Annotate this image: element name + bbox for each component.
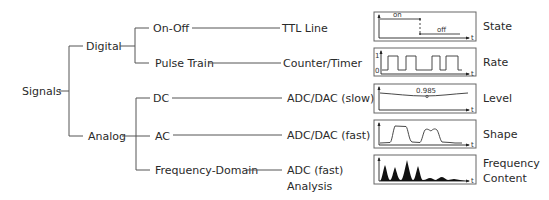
branch-label-digital: Digital [86,40,122,53]
branch-label-analog: Analog [88,130,126,143]
plot-state-axis-t: t [471,34,474,42]
plot-shape: t [374,120,476,149]
plot-state: on off t [374,11,476,42]
hardware-label-adc-dac-slow: ADC/DAC (slow) [287,92,374,105]
leaf-label-pulse-train: Pulse Train [155,57,214,70]
plot-frequency: t [374,155,476,185]
plot-rate-axis-t: t [471,70,474,78]
plot-level: 0.985 t [374,84,476,114]
signal-classification-diagram: Signals Digital Analog On-Off TTL Line P… [0,0,549,200]
hardware-label-adc-dac-fast: ADC/DAC (fast) [287,129,370,142]
property-label-content: Content [483,172,527,185]
hardware-label-adc-fast: ADC (fast) [287,164,343,177]
plot-rate: 1 0 t [374,48,476,78]
property-label-frequency: Frequency [483,157,540,170]
plot-frequency-axis-t: t [471,177,474,185]
plot-level-value-label: 0.985 [416,87,436,95]
plot-rate-low-label: 0 [375,67,379,75]
leaf-label-ac: AC [155,130,170,143]
hardware-label-counter-timer: Counter/Timer [283,57,363,70]
property-label-state: State [483,20,512,33]
leaf-label-on-off: On-Off [153,22,190,35]
plot-state-off-label: off [437,26,446,34]
leaf-label-frequency-domain: Frequency-Domain [155,164,258,177]
property-label-rate: Rate [483,56,508,69]
plot-level-axis-t: t [471,106,474,114]
plot-state-on-label: on [393,11,402,19]
property-label-level: Level [483,92,512,105]
property-label-shape: Shape [483,128,518,141]
leaf-label-dc: DC [153,92,169,105]
plot-rate-high-label: 1 [375,52,379,60]
hardware-label-ttl-line: TTL Line [281,22,328,35]
root-label-signals: Signals [22,85,62,98]
hardware-label-analysis: Analysis [287,180,333,193]
plot-shape-axis-t: t [471,141,474,149]
